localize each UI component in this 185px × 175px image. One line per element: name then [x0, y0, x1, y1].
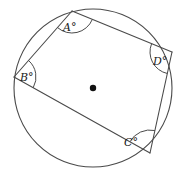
angle-label-a: A°: [63, 22, 76, 33]
angle-label-b: B°: [20, 72, 34, 83]
angle-label-c: C°: [124, 137, 138, 148]
geometry-figure: A°B°C°D°: [0, 0, 185, 175]
geometry-canvas: [0, 0, 185, 175]
quad-edge-da: [72, 11, 172, 52]
circle-center-dot: [90, 85, 96, 91]
angle-label-d: D°: [153, 56, 167, 67]
center-dot-layer: [90, 85, 96, 91]
